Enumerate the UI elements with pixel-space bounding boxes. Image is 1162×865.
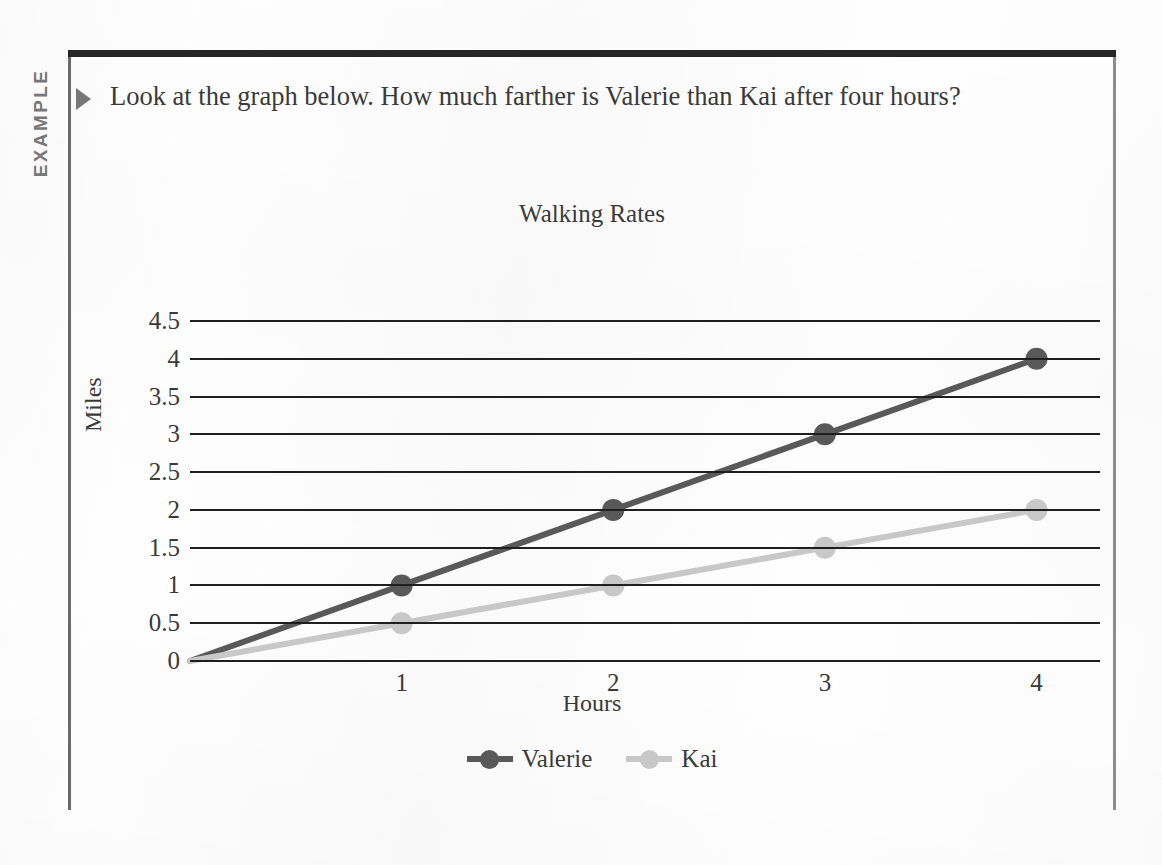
gridline <box>190 584 1100 586</box>
y-axis-title: Miles <box>80 377 107 432</box>
y-tick-label: 0 <box>168 647 181 675</box>
y-tick-label: 3 <box>168 420 181 448</box>
y-tick-label: 2.5 <box>149 458 180 486</box>
y-tick-label: 4 <box>168 345 181 373</box>
y-tick-label: 0.5 <box>149 609 180 637</box>
gridline <box>190 547 1100 549</box>
gridline <box>190 433 1100 435</box>
gridline <box>190 509 1100 511</box>
series-layer <box>190 321 1100 661</box>
legend-marker-icon <box>626 749 672 769</box>
y-tick-label: 1 <box>168 571 181 599</box>
legend-entry: Kai <box>626 745 717 773</box>
gridline <box>190 660 1100 662</box>
plot-area: 00.511.522.533.544.51234 <box>190 321 1100 661</box>
y-tick-label: 4.5 <box>149 307 180 335</box>
walking-rates-chart: Walking Rates Miles Hours 00.511.522.533… <box>68 200 1116 800</box>
prompt-text: Look at the graph below. How much farthe… <box>110 75 1040 117</box>
legend-entry: Valerie <box>467 745 593 773</box>
example-tab: EXAMPLE <box>18 48 64 198</box>
y-tick-label: 3.5 <box>149 383 180 411</box>
x-tick-label: 2 <box>607 669 620 697</box>
gridline <box>190 320 1100 322</box>
legend-label: Kai <box>681 745 717 773</box>
example-frame: Look at the graph below. How much farthe… <box>68 50 1116 810</box>
legend-marker-icon <box>467 749 513 769</box>
x-tick-label: 3 <box>819 669 832 697</box>
gridline <box>190 622 1100 624</box>
legend-label: Valerie <box>522 745 593 773</box>
x-tick-label: 4 <box>1030 669 1043 697</box>
frame-top-rule <box>68 50 1116 57</box>
triangle-right-icon <box>76 88 91 110</box>
gridline <box>190 358 1100 360</box>
gridline <box>190 471 1100 473</box>
y-tick-label: 1.5 <box>149 534 180 562</box>
gridline <box>190 396 1100 398</box>
y-tick-label: 2 <box>168 496 181 524</box>
chart-legend: ValerieKai <box>68 745 1116 773</box>
chart-title: Walking Rates <box>68 200 1116 228</box>
example-tab-label: EXAMPLE <box>30 69 52 178</box>
x-tick-label: 1 <box>395 669 408 697</box>
x-axis-title: Hours <box>68 690 1116 717</box>
